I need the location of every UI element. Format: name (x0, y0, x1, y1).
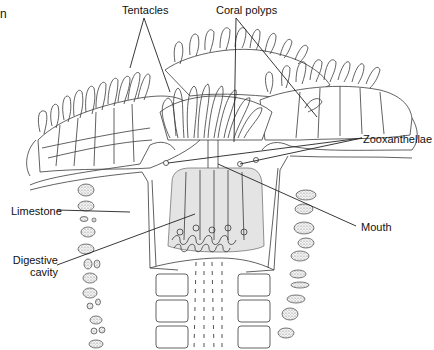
label-mouth: Mouth (361, 221, 392, 233)
coral-polyp-diagram (0, 0, 434, 350)
label-zooxanthellae: Zooxanthellae (363, 133, 432, 145)
label-tentacles: Tentacles (122, 4, 168, 16)
label-coral-polyps: Coral polyps (216, 4, 277, 16)
right-limestone-nodules (278, 190, 316, 338)
label-digestive-cavity-line1: Digestive (10, 254, 58, 266)
label-digestive-cavity: Digestive cavity (10, 254, 58, 278)
partial-edge-text: n (0, 8, 7, 20)
limestone-skeleton (156, 262, 270, 350)
left-limestone-nodules (78, 184, 105, 348)
label-limestone: Limestone (11, 205, 62, 217)
label-digestive-cavity-line2: cavity (10, 266, 58, 278)
